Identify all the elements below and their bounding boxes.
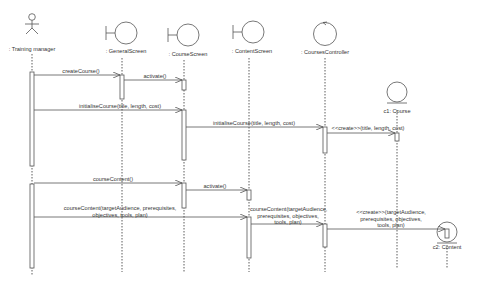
participant-label: c2: Content	[422, 244, 472, 251]
message-label: initialiseCourse(title, length, cost)	[70, 103, 170, 110]
participant-label: : GeneralScreen	[96, 48, 156, 55]
control-icon	[314, 22, 337, 46]
message-label: <<create>>(targetAudience, prerequisites…	[352, 209, 430, 229]
participant-label: : CoursesController	[292, 49, 358, 56]
boundary-icon	[233, 21, 264, 43]
message-label: createCourse()	[56, 68, 106, 75]
participant-label: : CourseScreen	[158, 51, 218, 58]
actor-icon	[25, 14, 39, 34]
participant-label: : ContentScreen	[222, 48, 282, 55]
message-label-line: courseContent(targetAudience,	[250, 206, 326, 213]
message-label-line: <<create>>(targetAudience,	[352, 209, 430, 216]
boundary-icon	[168, 24, 199, 46]
message-label-line: tools, plan)	[250, 219, 326, 226]
message-label-line: courseContent(targetAudience, prerequisi…	[55, 205, 185, 212]
message-label: courseContent(targetAudience, prerequisi…	[55, 205, 185, 218]
message-label: initialiseCourse(title, length, cost)	[204, 120, 304, 127]
message-label: courseContent(targetAudience, prerequisi…	[250, 206, 326, 226]
message-label: activate()	[195, 183, 235, 190]
message-label: courseContent()	[88, 176, 138, 183]
message-label: activate()	[130, 73, 180, 80]
boundary-icon	[106, 22, 137, 44]
entity-icon	[387, 82, 407, 103]
message-label-line: tools, plan)	[352, 222, 430, 229]
sequence-diagram-canvas	[0, 0, 477, 288]
participant-label: c1: Course	[372, 108, 422, 115]
message-label: <<create>>(title, length, cost)	[328, 125, 408, 132]
message-label-line: objectives, tools, plan)	[55, 212, 185, 219]
participant-label: : Training manager	[2, 46, 62, 53]
